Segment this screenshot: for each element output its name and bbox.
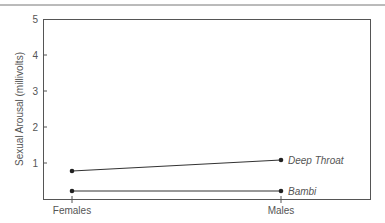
series-deep-throat: Deep Throat [70, 155, 345, 173]
series-label-deep-throat: Deep Throat [288, 155, 345, 166]
data-point [279, 158, 284, 163]
svg-text:3: 3 [32, 86, 38, 97]
y-tick-1: 1 [32, 158, 47, 169]
plot-frame [44, 20, 371, 200]
y-tick-4: 4 [32, 50, 47, 61]
series-label-bambi: Bambi [288, 186, 317, 197]
svg-text:5: 5 [32, 14, 38, 25]
svg-text:4: 4 [32, 50, 38, 61]
y-tick-2: 2 [32, 122, 47, 133]
data-point [70, 189, 75, 194]
x-label-males: Males [268, 205, 295, 216]
data-point [279, 189, 284, 194]
data-point [70, 169, 75, 174]
y-tick-3: 3 [32, 86, 47, 97]
y-axis: 1 2 3 4 5 Sexual Arousal (millivolts) [14, 14, 47, 169]
svg-text:1: 1 [32, 158, 38, 169]
svg-text:2: 2 [32, 122, 38, 133]
series-bambi: Bambi [70, 186, 317, 197]
chart: 1 2 3 4 5 Sexual Arousal (millivolts) Fe… [0, 0, 385, 223]
y-tick-5: 5 [32, 14, 38, 25]
y-axis-label: Sexual Arousal (millivolts) [14, 52, 25, 166]
x-label-females: Females [53, 205, 91, 216]
